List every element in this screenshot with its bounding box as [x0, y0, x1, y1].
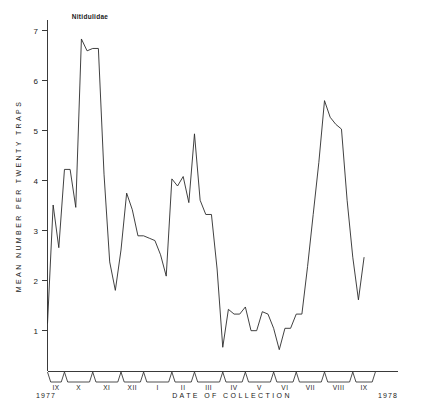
- y-tick-label-2: 2: [34, 277, 39, 286]
- series-title-label: Nitidulidae: [72, 13, 109, 20]
- y-tick-label-3: 3: [34, 227, 39, 236]
- month-bracket-ix-0: [48, 372, 65, 382]
- month-bracket-i-4: [144, 372, 172, 382]
- month-bracket-ii-5: [172, 372, 195, 382]
- x-axis-month-brackets: [48, 372, 376, 382]
- month-bracket-xii-3: [121, 372, 144, 382]
- x-tick-label-11: VIII: [333, 384, 345, 391]
- month-bracket-viii-11: [325, 372, 353, 382]
- x-axis-title: DATE OF COLLECTION: [172, 392, 292, 399]
- x-tick-label-9: VI: [281, 384, 288, 391]
- month-bracket-xi-2: [93, 372, 121, 382]
- chart-figure: 7 6 5 4 3 2 1 MEAN NUMBER PER TWENTY TRA…: [0, 0, 421, 412]
- x-tick-label-10: VII: [306, 384, 315, 391]
- month-bracket-iv-7: [223, 372, 246, 382]
- x-tick-label-0: IX: [52, 384, 59, 391]
- month-bracket-vii-10: [296, 372, 324, 382]
- month-bracket-vi-9: [274, 372, 297, 382]
- data-series-line: [48, 39, 365, 350]
- month-bracket-x-1: [64, 372, 92, 382]
- x-tick-label-4: I: [157, 384, 159, 391]
- y-tick-label-7: 7: [34, 27, 39, 36]
- y-tick-label-6: 6: [34, 77, 39, 86]
- y-axis-ticks: [42, 31, 48, 331]
- y-axis-title: MEAN NUMBER PER TWENTY TRAPS: [15, 100, 22, 292]
- y-tick-label-4: 4: [34, 177, 39, 186]
- month-bracket-iii-6: [194, 372, 222, 382]
- month-bracket-ix-12: [353, 372, 376, 382]
- x-axis-month-labels: IXXXIXIIIIIIIIIVVVIVIIVIIIIX: [52, 384, 367, 391]
- x-tick-label-6: III: [205, 384, 212, 391]
- month-bracket-v-8: [245, 372, 273, 382]
- y-tick-label-1: 1: [34, 327, 39, 336]
- x-tick-label-5: II: [181, 384, 186, 391]
- x-tick-label-8: V: [257, 384, 262, 391]
- year-label-start: 1977: [36, 392, 56, 399]
- x-tick-label-1: X: [76, 384, 81, 391]
- x-tick-label-3: XII: [128, 384, 137, 391]
- line-chart-svg: 7 6 5 4 3 2 1 MEAN NUMBER PER TWENTY TRA…: [0, 0, 421, 412]
- year-label-end: 1978: [378, 392, 398, 399]
- y-tick-label-5: 5: [34, 127, 39, 136]
- x-tick-label-2: XI: [103, 384, 110, 391]
- x-tick-label-12: IX: [361, 384, 368, 391]
- x-tick-label-7: IV: [230, 384, 237, 391]
